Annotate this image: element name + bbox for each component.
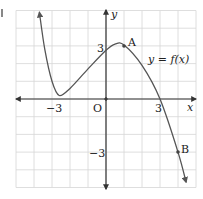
tick-label-y-3: 3 xyxy=(97,42,104,55)
curve-label: y = f(x) xyxy=(147,53,189,66)
tick-label-x-neg3: −3 xyxy=(46,102,62,115)
function-curve xyxy=(39,12,186,182)
tick-label-y-neg3: −3 xyxy=(89,147,105,160)
point-a-label: A xyxy=(127,36,137,49)
point-b-marker xyxy=(176,150,180,154)
point-b-label: B xyxy=(181,143,189,156)
function-graph: y x O −3 3 3 −3 A B y = f(x) xyxy=(0,0,203,199)
origin-label: O xyxy=(93,102,102,115)
x-axis-label: x xyxy=(187,101,194,114)
tick-label-x-3: 3 xyxy=(155,102,162,115)
point-a-marker xyxy=(122,44,126,48)
y-axis-label: y xyxy=(110,8,118,21)
